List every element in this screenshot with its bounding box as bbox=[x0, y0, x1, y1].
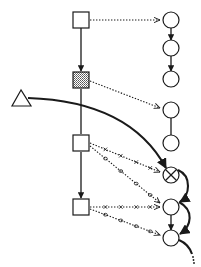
mapping-edges bbox=[90, 20, 160, 235]
square-node-3[interactable] bbox=[73, 135, 89, 151]
edge-s2-c4 bbox=[90, 81, 160, 108]
o-marker bbox=[104, 157, 108, 160]
dotted-continuation bbox=[192, 256, 195, 264]
o-marker bbox=[134, 182, 138, 185]
edge-t1-c6 bbox=[28, 98, 166, 168]
circle-node-7[interactable] bbox=[163, 199, 179, 215]
x-marker bbox=[104, 205, 108, 209]
circle-node-3[interactable] bbox=[163, 71, 179, 87]
edge-c8-tail bbox=[179, 240, 192, 254]
circle-node-5[interactable] bbox=[163, 135, 179, 151]
circle-node-4[interactable] bbox=[163, 102, 179, 118]
square-node-2-shaded[interactable] bbox=[73, 72, 89, 88]
circle-node-2[interactable] bbox=[163, 40, 179, 56]
x-marker bbox=[119, 154, 123, 158]
edge-s3-c7 bbox=[90, 146, 160, 203]
x-marker bbox=[119, 205, 123, 209]
x-marker bbox=[148, 205, 152, 209]
diagram-canvas bbox=[0, 0, 201, 267]
circle-node-1[interactable] bbox=[163, 12, 179, 28]
edge-c7-c8 bbox=[179, 202, 190, 234]
crossed-circle-node[interactable] bbox=[163, 167, 179, 183]
edge-s4-c8 bbox=[90, 209, 160, 235]
square-node-4[interactable] bbox=[73, 199, 89, 215]
o-marker bbox=[148, 194, 152, 197]
square-node-1[interactable] bbox=[73, 12, 89, 28]
x-marker bbox=[134, 205, 138, 209]
circle-node-8[interactable] bbox=[163, 230, 179, 246]
